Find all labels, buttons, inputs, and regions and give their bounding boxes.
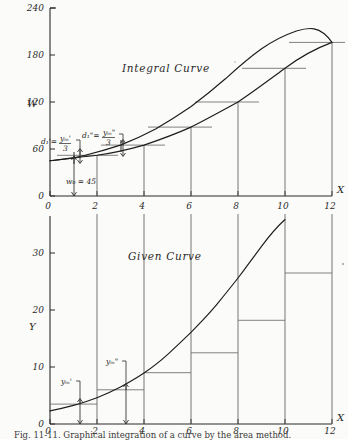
lower-y-axis-label: Y (29, 321, 37, 332)
upper-x-tick-12: 12 (324, 201, 336, 211)
ym-prime-label: yₘ' (60, 377, 72, 386)
upper-x-tick-8: 8 (233, 201, 239, 211)
upper-y-axis-label: W (27, 98, 38, 109)
lower-y-tick-10: 10 (33, 362, 45, 372)
lower-y-tick-30: 30 (33, 248, 45, 258)
upper-annotation-d1-double-prime: d₁"= yₘ" 3 (82, 128, 126, 157)
integral-curve-chart: 0 60 120 180 240 0 2 4 6 8 10 12 W X (0, 0, 348, 215)
given-curve-path (50, 220, 285, 411)
upper-y-tick-0: 0 (38, 191, 44, 201)
upper-x-tick-10: 10 (277, 201, 289, 211)
lower-y-tick-20: 20 (32, 305, 45, 315)
given-curve-chart: 0 10 20 30 0 2 4 6 8 10 12 Y X (0, 212, 348, 436)
upper-x-tick-2: 2 (91, 201, 98, 211)
lower-curve-label: Given Curve (128, 250, 202, 262)
upper-x-tick-4: 4 (138, 201, 145, 211)
upper-y-ticks (50, 8, 55, 196)
lower-x-axis-label: X (336, 412, 345, 423)
upper-y-tick-180: 180 (27, 50, 44, 60)
upper-curve-label: Integral Curve (121, 62, 210, 74)
lower-annotation-ym-prime: yₘ' (60, 377, 83, 424)
paper-speck (234, 61, 235, 62)
lower-annotation-ym-double-prime: yₘ" (105, 357, 129, 424)
d1-prime-denominator: 3 (63, 144, 68, 153)
upper-x-axis-label: X (336, 184, 345, 195)
lower-y-ticks (50, 253, 55, 424)
lower-y-tick-0: 0 (38, 419, 44, 429)
ym-dprime-label: yₘ" (105, 357, 118, 366)
figure-caption: Fig. 11-11. Graphical integration of a c… (14, 430, 344, 440)
lower-ordinates (97, 214, 332, 424)
d1-dprime-numerator: yₘ" (102, 128, 115, 137)
d1-prime-numerator: yₘ' (59, 134, 71, 143)
paper-speck-right (342, 263, 344, 265)
d1-prime-lhs: d₁'= (41, 137, 57, 146)
d1-dprime-denominator: 3 (106, 138, 111, 147)
upper-x-tick-0: 0 (45, 201, 51, 211)
d1-dprime-lhs: d₁"= (82, 131, 100, 140)
w0-label: w₀ = 45 (66, 177, 96, 186)
upper-y-tick-240: 240 (26, 3, 44, 13)
upper-x-tick-6: 6 (186, 201, 192, 211)
